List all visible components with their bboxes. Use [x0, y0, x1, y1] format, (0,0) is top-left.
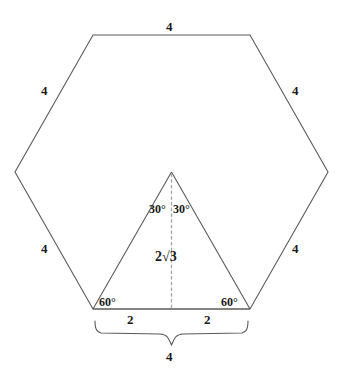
hexagon-side-label-upper-right: 4: [292, 84, 299, 97]
base-angle-label-left: 60°: [99, 296, 116, 308]
apex-angle-label-right: 30°: [173, 203, 190, 215]
base-brace: [95, 321, 248, 345]
hexagon-side-label-top: 4: [166, 20, 173, 33]
base-segment-label-left: 2: [127, 313, 134, 326]
inscribed-triangle-left-leg: [93, 172, 172, 309]
base-brace-label: 4: [166, 350, 173, 363]
hexagon-side-label-upper-left: 4: [41, 84, 48, 97]
geometry-canvas: [0, 0, 344, 381]
altitude-length-text: 2√3: [155, 249, 177, 264]
apex-angle-label-left: 30°: [149, 203, 166, 215]
hexagon-side-label-lower-right: 4: [292, 242, 299, 255]
inscribed-triangle-right-leg: [172, 172, 251, 309]
geometry-diagram: 4 4 4 4 4 30° 30° 2√3 60° 60° 2 2 4: [0, 0, 344, 381]
base-angle-label-right: 60°: [221, 296, 238, 308]
hexagon-side-label-lower-left: 4: [41, 242, 48, 255]
base-segment-label-right: 2: [204, 313, 211, 326]
altitude-length-label: 2√3: [155, 250, 177, 264]
